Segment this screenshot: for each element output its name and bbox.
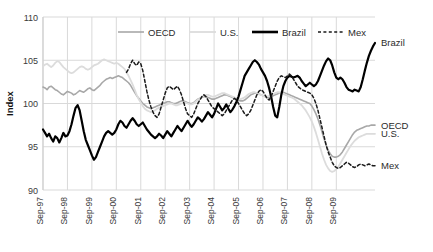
x-tick-label: Sep-98 <box>59 197 69 225</box>
y-tick-label: 110 <box>24 13 38 23</box>
series-line-mex <box>127 60 375 168</box>
y-tick-label: 105 <box>23 56 38 66</box>
x-tick-label: Sep-08 <box>304 197 314 225</box>
x-tick-label: Sep-07 <box>279 197 289 225</box>
x-tick-label: Sep-09 <box>328 197 338 225</box>
y-axis-title: Index <box>4 90 15 116</box>
end-label-mex: Mex <box>381 160 399 171</box>
y-tick-label: 95 <box>28 142 38 152</box>
x-tick-label: Sep-99 <box>84 197 94 225</box>
chart-container: 9095100105110IndexSep-97Sep-98Sep-99Sep-… <box>0 0 433 252</box>
x-tick-label: Sep-00 <box>108 197 118 225</box>
x-tick-label: Sep-05 <box>231 197 241 225</box>
legend-label-mex[interactable]: Mex <box>348 27 366 38</box>
x-tick-label: Sep-06 <box>255 197 265 225</box>
y-tick-label: 100 <box>23 99 38 109</box>
x-tick-label: Sep-03 <box>182 197 192 225</box>
line-chart: 9095100105110IndexSep-97Sep-98Sep-99Sep-… <box>0 0 433 252</box>
end-label-us: U.S. <box>381 128 399 139</box>
legend-label-oecd[interactable]: OECD <box>148 27 176 38</box>
x-tick-label: Sep-01 <box>133 197 143 225</box>
x-tick-label: Sep-04 <box>206 197 216 225</box>
x-tick-label: Sep-02 <box>157 197 167 225</box>
x-tick-label: Sep-97 <box>35 197 45 225</box>
end-label-brazil: Brazil <box>381 37 405 48</box>
series-line-oecd <box>43 76 375 157</box>
legend-label-us[interactable]: U.S. <box>220 27 238 38</box>
y-tick-label: 90 <box>28 186 38 196</box>
legend-label-brazil[interactable]: Brazil <box>282 27 306 38</box>
